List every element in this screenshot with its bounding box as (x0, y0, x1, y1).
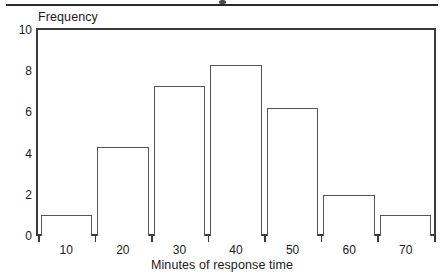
y-axis-tick-label: 10 (6, 24, 32, 36)
bar (154, 86, 206, 236)
x-axis-tick-mark (95, 236, 97, 242)
bar (267, 108, 319, 236)
histogram-chart: Frequency 1086420 10203040506070 Minutes… (0, 0, 444, 274)
y-axis-tick-label: 0 (6, 230, 32, 242)
x-axis-title: Minutes of response time (0, 258, 444, 272)
cropped-title-remnant (219, 0, 226, 4)
x-axis-tick-mark (151, 236, 153, 242)
x-axis-tick-mark (208, 236, 210, 242)
bar (97, 147, 149, 236)
x-axis-tick-label: 20 (103, 243, 143, 257)
x-axis-tick-mark (38, 236, 40, 242)
y-axis-tick-label: 8 (6, 65, 32, 77)
y-axis-tick-label: 6 (6, 106, 32, 118)
top-rule-divider (6, 4, 438, 6)
x-axis-tick-label: 10 (46, 243, 86, 257)
x-axis-tick-labels: 10203040506070 (38, 243, 434, 259)
bar (210, 65, 262, 236)
x-axis-tick-mark (264, 236, 266, 242)
bar (41, 215, 93, 236)
y-axis-tick-label: 2 (6, 189, 32, 201)
bar (380, 215, 432, 236)
bars-layer (38, 30, 434, 236)
x-axis-tick-mark (321, 236, 323, 242)
x-axis-tick-label: 70 (386, 243, 426, 257)
x-axis-tick-mark (377, 236, 379, 242)
y-axis-title: Frequency (38, 10, 98, 24)
bar (323, 195, 375, 236)
y-axis-tick-labels: 1086420 (0, 0, 32, 274)
x-axis-tick-mark (434, 236, 436, 242)
x-axis-tick-label: 60 (329, 243, 369, 257)
x-axis-tick-marks (38, 236, 434, 242)
x-axis-tick-label: 50 (273, 243, 313, 257)
x-axis-tick-label: 40 (216, 243, 256, 257)
x-axis-tick-label: 30 (159, 243, 199, 257)
y-axis-tick-label: 4 (6, 148, 32, 160)
